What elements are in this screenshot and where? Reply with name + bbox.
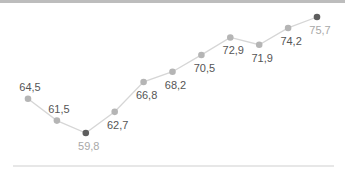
data-point [140, 79, 147, 86]
data-point [256, 41, 263, 48]
data-point [111, 109, 118, 116]
data-label: 70,5 [194, 62, 215, 74]
data-label: 68,2 [165, 79, 186, 91]
data-point [54, 117, 61, 124]
data-point [169, 68, 176, 75]
data-point [25, 95, 32, 102]
highlight-data-point [314, 14, 321, 21]
data-labels: 64,561,559,862,766,868,270,572,971,974,2… [19, 24, 330, 152]
line-chart: 64,561,559,862,766,868,270,572,971,974,2… [0, 0, 345, 172]
data-label: 62,7 [107, 119, 128, 131]
data-points [25, 14, 321, 137]
data-label: 71,9 [251, 52, 272, 64]
data-label: 66,8 [136, 89, 157, 101]
data-point [227, 34, 234, 41]
data-label: 59,8 [78, 140, 99, 152]
data-label: 72,9 [223, 44, 244, 56]
data-label: 74,2 [280, 35, 301, 47]
data-label: 61,5 [48, 103, 69, 115]
data-label: 64,5 [19, 81, 40, 93]
data-label: 75,7 [309, 24, 330, 36]
data-point [285, 25, 292, 32]
highlight-data-point [83, 130, 90, 137]
data-point [198, 52, 205, 59]
